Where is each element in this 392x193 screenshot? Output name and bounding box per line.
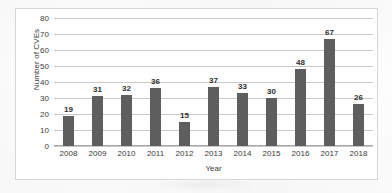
x-axis-tick-label: 2014	[228, 149, 257, 158]
x-axis-tick-label: 2013	[199, 149, 228, 158]
scanned-page: Number of CVEs 01020304050607080 1931323…	[0, 0, 392, 193]
bar-value-label: 31	[93, 85, 102, 94]
y-axis-tick-label: 80	[40, 14, 49, 23]
bar-slot: 36	[141, 18, 170, 146]
bar-slot: 32	[112, 18, 141, 146]
bar[interactable]: 31	[92, 96, 103, 146]
bar-slot: 31	[83, 18, 112, 146]
y-axis-tick-label: 50	[40, 62, 49, 71]
bar[interactable]: 26	[353, 104, 364, 146]
bar-value-label: 30	[267, 87, 276, 96]
x-axis-tick-label: 2009	[83, 149, 112, 158]
bar-value-label: 19	[64, 105, 73, 114]
y-axis-tick-label: 30	[40, 94, 49, 103]
x-axis-tick-label: 2012	[170, 149, 199, 158]
x-axis-tick-labels: 2008200920102011201220132014201520162017…	[54, 149, 373, 158]
bar-value-label: 36	[151, 77, 160, 86]
x-axis-tick-label: 2018	[344, 149, 373, 158]
bar-slot: 37	[199, 18, 228, 146]
x-axis-tick-label: 2010	[112, 149, 141, 158]
bar-slot: 19	[54, 18, 83, 146]
bar-value-label: 26	[354, 93, 363, 102]
bar[interactable]: 67	[324, 39, 335, 146]
bar-slot: 15	[170, 18, 199, 146]
x-axis-tick-label: 2011	[141, 149, 170, 158]
y-axis-tick-label: 0	[45, 142, 49, 151]
y-axis-tick-label: 20	[40, 110, 49, 119]
x-axis-title: Year	[54, 164, 373, 173]
bar-value-label: 32	[122, 84, 131, 93]
x-axis-tick-label: 2008	[54, 149, 83, 158]
bar-series: 1931323615373330486726	[54, 18, 373, 146]
y-axis-title: Number of CVEs	[32, 14, 41, 106]
bar-value-label: 33	[238, 82, 247, 91]
y-axis-tick-label: 10	[40, 126, 49, 135]
gridline	[54, 146, 373, 147]
x-axis-tick-label: 2017	[315, 149, 344, 158]
x-axis-tick-label: 2016	[286, 149, 315, 158]
bar[interactable]: 37	[208, 87, 219, 146]
bar-slot: 30	[257, 18, 286, 146]
bar[interactable]: 30	[266, 98, 277, 146]
bar[interactable]: 33	[237, 93, 248, 146]
plot-area: 01020304050607080 1931323615373330486726	[54, 18, 373, 146]
bar[interactable]: 15	[179, 122, 190, 146]
y-axis-tick-label: 60	[40, 46, 49, 55]
bar-slot: 67	[315, 18, 344, 146]
y-axis-tick-label: 70	[40, 30, 49, 39]
bar-value-label: 67	[325, 28, 334, 37]
bar[interactable]: 36	[150, 88, 161, 146]
bar[interactable]: 48	[295, 69, 306, 146]
bar-slot: 26	[344, 18, 373, 146]
bar-chart: Number of CVEs 01020304050607080 1931323…	[15, 8, 378, 180]
scan-smudge-artifact	[150, 179, 260, 190]
bar-value-label: 15	[180, 111, 189, 120]
bar-slot: 33	[228, 18, 257, 146]
y-axis-tick-label: 40	[40, 78, 49, 87]
x-axis-tick-label: 2015	[257, 149, 286, 158]
bar-value-label: 48	[296, 58, 305, 67]
bar[interactable]: 19	[63, 116, 74, 146]
bar[interactable]: 32	[121, 95, 132, 146]
bar-value-label: 37	[209, 76, 218, 85]
bar-slot: 48	[286, 18, 315, 146]
